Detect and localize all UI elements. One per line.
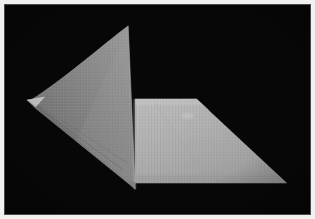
folded-sheet-scene	[5, 5, 310, 214]
photograph	[4, 4, 311, 215]
lit-panel-highlight-spot	[182, 113, 194, 119]
lit-panel-bottom-shadow	[129, 175, 298, 184]
fold-line	[132, 99, 137, 189]
photo-frame: Folded gray sheet on black background	[0, 0, 315, 219]
